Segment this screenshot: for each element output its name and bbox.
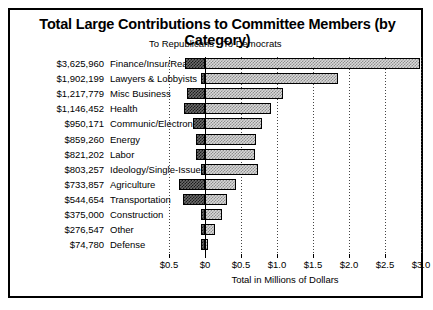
- row-total-amount: $1,902,199: [18, 73, 104, 84]
- chart-row: $803,257Ideology/Single-Issue: [10, 163, 425, 178]
- bar-segment-democrats: [205, 194, 227, 205]
- row-total-amount: $859,260: [18, 134, 104, 145]
- bar-segment-democrats: [205, 149, 255, 160]
- chart-frame: Total Large Contributions to Committee M…: [8, 8, 423, 298]
- row-category-label: Energy: [110, 134, 205, 145]
- bar-segment-democrats: [205, 239, 208, 250]
- x-tick: [385, 254, 386, 258]
- bar-segment-republicans: [196, 134, 205, 145]
- bar-segment-democrats: [205, 118, 262, 129]
- x-tick-label: $3.0: [401, 259, 433, 270]
- row-total-amount: $1,217,779: [18, 88, 104, 99]
- plot-area: $3,625,960Finance/Insur/Real Est$1,902,1…: [10, 10, 425, 300]
- bar-segment-republicans: [183, 194, 205, 205]
- bar-segment-democrats: [205, 224, 215, 235]
- x-tick: [421, 254, 422, 258]
- row-category-label: Other: [110, 224, 205, 235]
- x-tick: [277, 254, 278, 258]
- x-tick-label: $0.5: [149, 259, 189, 270]
- chart-row: $1,217,779Misc Business: [10, 87, 425, 102]
- x-tick-label: $2.5: [365, 259, 405, 270]
- row-total-amount: $733,857: [18, 179, 104, 190]
- x-tick-label: $1.5: [293, 259, 333, 270]
- bar-segment-republicans: [184, 103, 205, 114]
- chart-row: $1,902,199Lawyers & Lobbyists: [10, 72, 425, 87]
- row-category-label: Construction: [110, 209, 205, 220]
- chart-row: $276,547Other: [10, 223, 425, 238]
- row-total-amount: $1,146,452: [18, 103, 104, 114]
- bar-segment-republicans: [185, 58, 205, 69]
- row-category-label: Labor: [110, 149, 205, 160]
- x-tick: [169, 254, 170, 258]
- x-tick-label: $1.0: [257, 259, 297, 270]
- row-category-label: Defense: [110, 239, 205, 250]
- row-total-amount: $803,257: [18, 164, 104, 175]
- x-tick: [205, 254, 206, 258]
- bar-segment-democrats: [205, 209, 222, 220]
- x-tick: [313, 254, 314, 258]
- row-total-amount: $375,000: [18, 209, 104, 220]
- bar-segment-democrats: [205, 103, 271, 114]
- row-total-amount: $74,780: [18, 239, 104, 250]
- chart-row: $821,202Labor: [10, 148, 425, 163]
- chart-row: $950,171Communic/Electronics: [10, 117, 425, 132]
- x-tick-label: $0: [185, 259, 225, 270]
- bar-segment-democrats: [205, 134, 256, 145]
- x-tick: [349, 254, 350, 258]
- x-tick-label: $2.0: [329, 259, 369, 270]
- row-total-amount: $821,202: [18, 149, 104, 160]
- x-tick-label: $0.5: [221, 259, 261, 270]
- chart-row: $375,000Construction: [10, 208, 425, 223]
- bar-segment-democrats: [205, 58, 420, 69]
- bar-segment-democrats: [205, 179, 236, 190]
- row-total-amount: $544,654: [18, 194, 104, 205]
- row-total-amount: $3,625,960: [18, 58, 104, 69]
- chart-row: $74,780Defense: [10, 238, 425, 253]
- bar-segment-republicans: [179, 179, 205, 190]
- x-axis-title: Total in Millions of Dollars: [160, 274, 410, 285]
- bar-segment-democrats: [205, 88, 283, 99]
- bar-segment-republicans: [193, 118, 205, 129]
- row-total-amount: $276,547: [18, 224, 104, 235]
- bar-segment-democrats: [205, 164, 258, 175]
- chart-row: $859,260Energy: [10, 133, 425, 148]
- bar-segment-republicans: [187, 88, 205, 99]
- row-category-label: Communic/Electronics: [110, 118, 205, 129]
- row-total-amount: $950,171: [18, 118, 104, 129]
- chart-row: $544,654Transportation: [10, 193, 425, 208]
- chart-row: $733,857Agriculture: [10, 178, 425, 193]
- bar-segment-republicans: [196, 149, 205, 160]
- row-category-label: Lawyers & Lobbyists: [110, 73, 205, 84]
- chart-row: $1,146,452Health: [10, 102, 425, 117]
- chart-row: $3,625,960Finance/Insur/Real Est: [10, 57, 425, 72]
- row-category-label: Ideology/Single-Issue: [110, 164, 205, 175]
- bar-segment-democrats: [205, 73, 338, 84]
- x-tick: [241, 254, 242, 258]
